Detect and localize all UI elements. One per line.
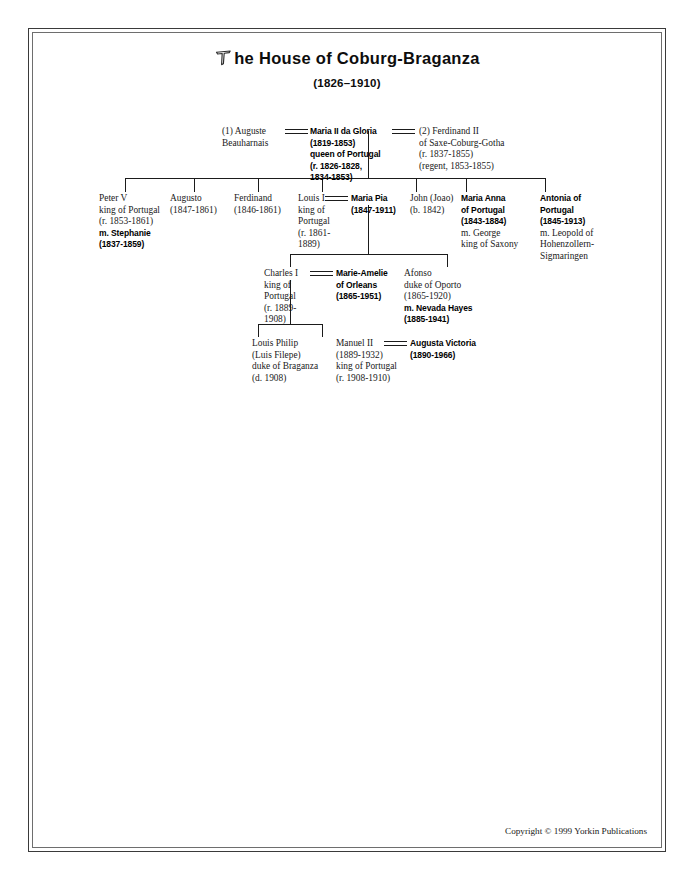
person-line: 1889)	[298, 239, 342, 251]
marriage-link-maria-ii-ferdinand-ii	[392, 129, 415, 134]
person-john-joao: John (Joao) (b. 1842)	[410, 193, 466, 216]
person-augusta-victoria: Augusta Victoria (1890-1966)	[410, 338, 500, 361]
person-line: (2) Ferdinand II	[419, 126, 529, 138]
person-line: 1834-1853)	[310, 172, 388, 184]
person-line: of Portugal	[461, 205, 531, 217]
person-line: king of	[298, 205, 342, 217]
person-line: Marie-Amelie	[336, 268, 402, 280]
person-line: m. George	[461, 228, 531, 240]
person-line: Charles I	[264, 268, 310, 280]
person-line: (1843-1884)	[461, 216, 531, 228]
person-line: king of Saxony	[461, 239, 531, 251]
person-line: (1846-1861)	[234, 205, 296, 217]
marriage-link-charles-i-marie-amelie	[310, 271, 333, 276]
person-line: Sigmaringen	[540, 251, 612, 263]
person-line: (1889-1932)	[336, 350, 408, 362]
person-line: Louis Philip	[252, 338, 330, 350]
person-line: 1908)	[264, 314, 310, 326]
person-line: (1890-1966)	[410, 350, 500, 362]
person-line: m. Stephanie	[99, 228, 171, 240]
person-antonia-of-portugal: Antonia of Portugal (1845-1913) m. Leopo…	[540, 193, 612, 263]
marriage-link-louis-i-maria-pia	[325, 196, 348, 201]
person-line: Maria II da Gloria	[310, 126, 388, 138]
person-line: (Luis Filepe)	[252, 350, 330, 362]
person-line: (regent, 1853-1855)	[419, 161, 529, 173]
person-line: (1847-1911)	[351, 205, 411, 217]
person-line: Hohenzollern-	[540, 239, 612, 251]
person-line: Afonso	[404, 268, 484, 280]
person-line: Portugal	[298, 216, 342, 228]
person-line: (r. 1861-	[298, 228, 342, 240]
person-line: (r. 1889-	[264, 303, 310, 315]
person-augusto: Augusto (1847-1861)	[170, 193, 230, 216]
person-line: Ferdinand	[234, 193, 296, 205]
person-line: (r. 1837-1855)	[419, 149, 529, 161]
marriage-link-manuel-ii-augusta-victoria	[384, 341, 407, 346]
person-maria-pia: Maria Pia (1847-1911)	[351, 193, 411, 216]
person-line: Beauharnais	[222, 138, 284, 150]
family-tree: (1) Auguste Beauharnais Maria II da Glor…	[0, 0, 694, 883]
person-line: (1865-1951)	[336, 291, 402, 303]
person-maria-anna-of-portugal: Maria Anna of Portugal (1843-1884) m. Ge…	[461, 193, 531, 251]
person-marie-amelie-of-orleans: Marie-Amelie of Orleans (1865-1951)	[336, 268, 402, 303]
person-line: (b. 1842)	[410, 205, 466, 217]
person-line: Peter V	[99, 193, 171, 205]
person-ferdinand-ii-saxe-coburg-gotha: (2) Ferdinand II of Saxe-Coburg-Gotha (r…	[419, 126, 529, 172]
person-line: John (Joao)	[410, 193, 466, 205]
person-line: of Orleans	[336, 280, 402, 292]
person-louis-i: Louis I king of Portugal (r. 1861- 1889)	[298, 193, 342, 251]
person-line: (r. 1853-1861)	[99, 216, 171, 228]
person-line: Maria Pia	[351, 193, 411, 205]
person-line: (1865-1920)	[404, 291, 484, 303]
person-line: (1837-1859)	[99, 239, 171, 251]
person-line: Augusta Victoria	[410, 338, 500, 350]
person-afonso-duke-of-oporto: Afonso duke of Oporto (1865-1920) m. Nev…	[404, 268, 484, 326]
person-line: (1885-1941)	[404, 314, 484, 326]
person-line: duke of Braganza	[252, 361, 330, 373]
person-line: m. Leopold of	[540, 228, 612, 240]
person-line: queen of Portugal	[310, 149, 388, 161]
person-line: (1845-1913)	[540, 216, 612, 228]
marriage-link-auguste-maria-ii	[285, 129, 308, 134]
person-peter-v: Peter V king of Portugal (r. 1853-1861) …	[99, 193, 171, 251]
person-line: Portugal	[264, 291, 310, 303]
person-line: of Saxe-Coburg-Gotha	[419, 138, 529, 150]
person-line: (1819-1853)	[310, 138, 388, 150]
person-line: (1847-1861)	[170, 205, 230, 217]
person-line: (1) Auguste	[222, 126, 284, 138]
person-charles-i: Charles I king of Portugal (r. 1889- 190…	[264, 268, 310, 326]
person-line: Antonia of	[540, 193, 612, 205]
person-line: king of Portugal	[336, 361, 408, 373]
person-line: duke of Oporto	[404, 280, 484, 292]
person-louis-philip: Louis Philip (Luis Filepe) duke of Braga…	[252, 338, 330, 384]
person-line: (d. 1908)	[252, 373, 330, 385]
person-line: (r. 1908-1910)	[336, 373, 408, 385]
person-line: king of	[264, 280, 310, 292]
copyright-notice: Copyright © 1999 Yorkin Publications	[505, 826, 647, 836]
person-ferdinand: Ferdinand (1846-1861)	[234, 193, 296, 216]
person-maria-ii-da-gloria: Maria II da Gloria (1819-1853) queen of …	[310, 126, 388, 184]
person-line: king of Portugal	[99, 205, 171, 217]
person-line: (r. 1826-1828,	[310, 161, 388, 173]
person-line: Augusto	[170, 193, 230, 205]
person-line: m. Nevada Hayes	[404, 303, 484, 315]
person-auguste-beauharnais: (1) Auguste Beauharnais	[222, 126, 284, 149]
person-line: Maria Anna	[461, 193, 531, 205]
person-line: Portugal	[540, 205, 612, 217]
